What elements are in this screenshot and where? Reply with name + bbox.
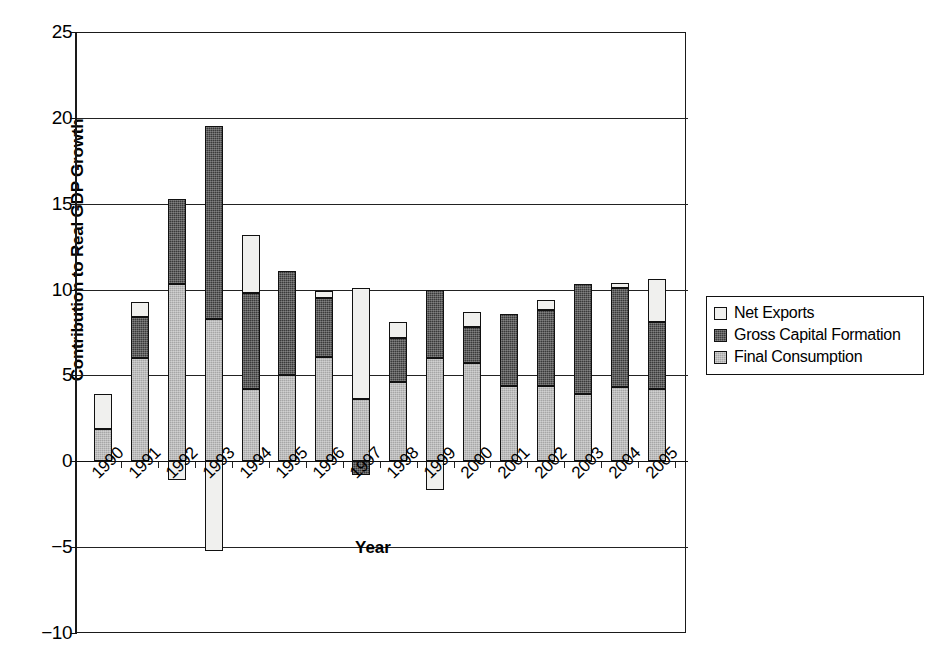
- bar-segment-net-exports-1996: [315, 291, 333, 298]
- legend-label-fc: Final Consumption: [734, 348, 862, 366]
- bar-group-1993: [205, 32, 223, 633]
- bar-group-1996: [315, 32, 333, 633]
- bar-segment-gross-capital-formation-2000: [463, 327, 481, 363]
- y-tick-10: [70, 290, 77, 291]
- bar-segment-gross-capital-formation-2003: [574, 284, 592, 394]
- y-tick-20: [70, 118, 77, 119]
- chart-figure: Contribution to Real GDP Growth −10−5051…: [0, 0, 935, 658]
- y-tick-label--10: −10: [26, 623, 72, 642]
- bar-group-1999: [426, 32, 444, 633]
- bar-segment-gross-capital-formation-1993: [205, 126, 223, 318]
- y-tick-label--5: −5: [26, 537, 72, 556]
- bar-group-1995: [278, 32, 296, 633]
- bar-group-1990: [94, 32, 112, 633]
- bar-segment-net-exports-1990: [94, 394, 112, 428]
- bar-group-1992: [168, 32, 186, 633]
- bar-segment-gross-capital-formation-1991: [131, 317, 149, 358]
- legend-swatch-gcf: [714, 329, 727, 342]
- bar-group-1991: [131, 32, 149, 633]
- bar-segment-final-consumption-1991: [131, 358, 149, 461]
- legend-label-ne: Net Exports: [734, 304, 814, 322]
- bar-group-1994: [242, 32, 260, 633]
- bar-segment-gross-capital-formation-1998: [389, 338, 407, 383]
- y-tick-5: [70, 375, 77, 376]
- bar-group-2004: [611, 32, 629, 633]
- bar-group-2001: [500, 32, 518, 633]
- legend-item-ne: Net Exports: [714, 302, 917, 324]
- y-axis-tick-labels: −10−50510152025: [26, 0, 72, 658]
- bar-group-2002: [537, 32, 555, 633]
- bar-segment-net-exports-1991: [131, 302, 149, 317]
- bar-group-2005: [648, 32, 666, 633]
- legend-label-gcf: Gross Capital Formation: [734, 326, 901, 344]
- bar-segment-gross-capital-formation-2005: [648, 322, 666, 389]
- bar-segment-net-exports-2002: [537, 300, 555, 310]
- bar-segment-net-exports-2004: [611, 283, 629, 288]
- bar-group-1998: [389, 32, 407, 633]
- y-tick-label-5: 5: [26, 365, 72, 384]
- bar-segment-net-exports-1998: [389, 322, 407, 337]
- bar-segment-net-exports-2005: [648, 279, 666, 322]
- bar-segment-gross-capital-formation-1999: [426, 290, 444, 359]
- y-tick-label-15: 15: [26, 194, 72, 213]
- y-tick-label-25: 25: [26, 22, 72, 41]
- legend-swatch-fc: [714, 351, 727, 364]
- bar-group-2000: [463, 32, 481, 633]
- bar-segment-final-consumption-1992: [168, 284, 186, 461]
- y-tick-0: [70, 461, 77, 462]
- bar-segment-final-consumption-1993: [205, 319, 223, 462]
- bar-segment-gross-capital-formation-2001: [500, 314, 518, 386]
- y-tick--10: [70, 633, 77, 634]
- legend-item-gcf: Gross Capital Formation: [714, 324, 917, 346]
- y-tick-label-20: 20: [26, 108, 72, 127]
- legend-item-fc: Final Consumption: [714, 346, 917, 368]
- y-tick-label-0: 0: [26, 451, 72, 470]
- x-axis-title: Year: [355, 538, 391, 558]
- y-tick-label-10: 10: [26, 280, 72, 299]
- y-tick--5: [70, 547, 77, 548]
- bar-segment-gross-capital-formation-1994: [242, 293, 260, 389]
- bar-segment-net-exports-1997: [352, 288, 370, 400]
- bar-segment-gross-capital-formation-2004: [611, 288, 629, 388]
- bar-segment-gross-capital-formation-1995: [278, 271, 296, 376]
- bar-segment-net-exports-1994: [242, 235, 260, 293]
- bar-segment-net-exports-2000: [463, 312, 481, 327]
- chart-legend: Net ExportsGross Capital FormationFinal …: [706, 296, 924, 375]
- bar-segment-gross-capital-formation-1992: [168, 199, 186, 285]
- bar-segment-gross-capital-formation-2002: [537, 310, 555, 386]
- bar-segment-gross-capital-formation-1996: [315, 298, 333, 356]
- y-tick-15: [70, 204, 77, 205]
- y-tick-25: [70, 32, 77, 33]
- bar-group-2003: [574, 32, 592, 633]
- legend-swatch-ne: [714, 307, 727, 320]
